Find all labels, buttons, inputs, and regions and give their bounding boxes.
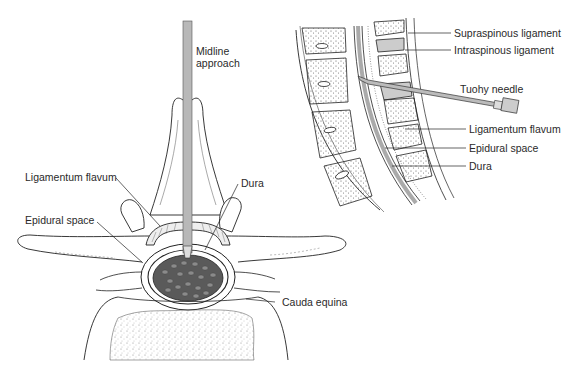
label-supraspinous-ligament: Supraspinous ligament xyxy=(454,27,561,39)
label-sagittal-dura: Dura xyxy=(469,160,492,172)
label-intraspinous-ligament: Intraspinous ligament xyxy=(454,44,554,56)
diagram-canvas: Midline approach Ligamentum flavum Dura … xyxy=(0,0,574,377)
label-axial-ligamentum-flavum: Ligamentum flavum xyxy=(25,171,117,183)
label-midline-approach-1: Midline xyxy=(196,45,229,57)
label-sagittal-epidural-space: Epidural space xyxy=(469,142,538,154)
label-midline-approach-2: approach xyxy=(196,57,240,69)
label-cauda-equina: Cauda equina xyxy=(282,296,347,308)
label-sagittal-ligamentum-flavum: Ligamentum flavum xyxy=(469,123,561,135)
label-axial-dura: Dura xyxy=(241,177,264,189)
label-axial-epidural-space: Epidural space xyxy=(25,214,94,226)
sagittal-spine-illustration xyxy=(0,0,574,377)
label-tuohy-needle: Tuohy needle xyxy=(460,83,523,95)
